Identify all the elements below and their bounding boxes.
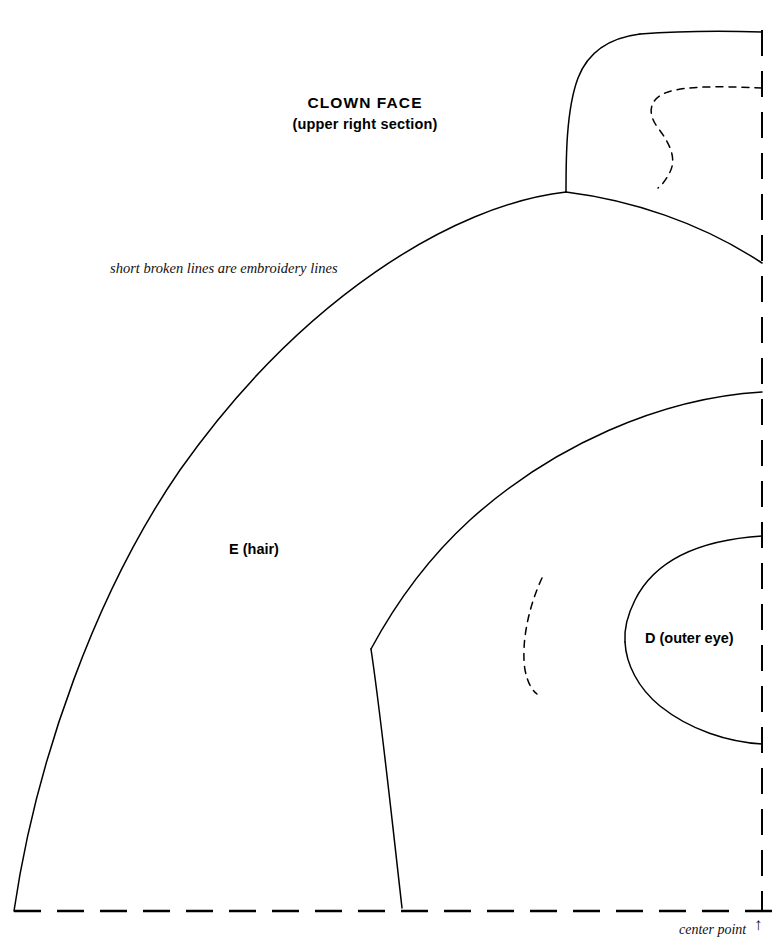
piece-label-e-hair: E (hair)	[229, 540, 279, 559]
embroidery-legend-note: short broken lines are embroidery lines	[110, 259, 338, 278]
paper-background	[0, 0, 772, 951]
center-point-label: center point	[679, 921, 746, 939]
title-sub-text: (upper right section)	[0, 115, 730, 134]
page-title: CLOWN FACE (upper right section)	[0, 93, 730, 133]
pattern-drawing	[0, 0, 772, 951]
pattern-sheet: CLOWN FACE (upper right section) short b…	[0, 0, 772, 951]
piece-label-d-outer-eye: D (outer eye)	[645, 629, 734, 648]
title-main-text: CLOWN FACE	[0, 93, 730, 113]
center-point-arrow-icon: ↑	[754, 914, 763, 936]
